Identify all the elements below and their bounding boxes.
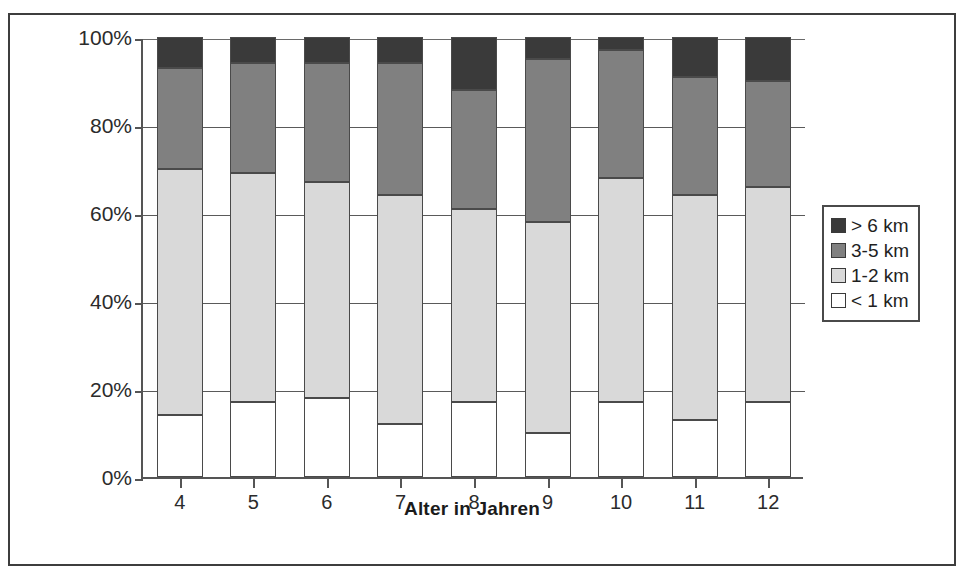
y-axis-tick-label: 0%: [22, 466, 132, 490]
bar-segment: [230, 37, 276, 63]
bar-segment: [598, 178, 644, 402]
bar-column: [525, 37, 571, 477]
x-axis-tick: [400, 479, 402, 488]
bar-segment: [304, 398, 350, 477]
bar-column: [672, 37, 718, 477]
bar-segment: [451, 90, 497, 209]
bar-column: [157, 37, 203, 477]
bar-segment: [230, 173, 276, 402]
x-axis-tick: [474, 479, 476, 488]
bar-segment: [598, 50, 644, 178]
bar-segment: [451, 209, 497, 403]
bar-segment: [230, 402, 276, 477]
chart-root: 0%20%40%60%80%100% 456789101112 Alter in…: [0, 0, 975, 584]
y-axis-tick: [135, 303, 143, 305]
x-axis-tick: [768, 479, 770, 488]
legend-swatch-icon: [831, 293, 846, 308]
bar-column: [451, 37, 497, 477]
legend-item[interactable]: 3-5 km: [831, 238, 909, 263]
y-axis-tick: [135, 127, 143, 129]
bar-segment: [157, 169, 203, 415]
y-axis-labels: 0%20%40%60%80%100%: [14, 39, 132, 479]
y-axis-tick: [135, 479, 143, 481]
x-axis-tick: [548, 479, 550, 488]
x-axis-tick: [253, 479, 255, 488]
legend-item[interactable]: < 1 km: [831, 288, 909, 313]
bar-segment: [377, 63, 423, 195]
legend-item-label: < 1 km: [851, 290, 909, 312]
bar-segment: [598, 37, 644, 50]
x-axis-tick: [621, 479, 623, 488]
x-axis-tick: [180, 479, 182, 488]
bar-segment: [672, 77, 718, 196]
bar-segment: [745, 37, 791, 81]
plot-area: 456789101112: [141, 39, 803, 479]
legend-item[interactable]: > 6 km: [831, 213, 909, 238]
bar-segment: [672, 420, 718, 477]
bar-segment: [304, 63, 350, 182]
bar-segment: [745, 81, 791, 187]
bar-segment: [672, 37, 718, 77]
bar-segment: [157, 68, 203, 169]
bar-segment: [451, 37, 497, 90]
x-axis-tick: [695, 479, 697, 488]
bar-segment: [672, 195, 718, 419]
x-axis-tick: [327, 479, 329, 488]
x-axis-title: Alter in Jahren: [141, 498, 803, 520]
bar-segment: [377, 195, 423, 424]
legend-swatch-icon: [831, 268, 846, 283]
bar-segment: [451, 402, 497, 477]
bar-segment: [525, 59, 571, 222]
bar-segment: [157, 415, 203, 477]
y-axis-tick-label: 40%: [22, 290, 132, 314]
legend-item-label: 1-2 km: [851, 265, 909, 287]
bar-column: [304, 37, 350, 477]
legend-item-label: 3-5 km: [851, 240, 909, 262]
legend-item[interactable]: 1-2 km: [831, 263, 909, 288]
y-axis-tick: [135, 39, 143, 41]
bar-column: [598, 37, 644, 477]
y-axis-tick: [135, 391, 143, 393]
legend: > 6 km3-5 km1-2 km< 1 km: [822, 205, 920, 322]
legend-item-label: > 6 km: [851, 215, 909, 237]
bar-column: [230, 37, 276, 477]
bar-segment: [598, 402, 644, 477]
bar-segment: [745, 187, 791, 403]
y-axis-tick-label: 60%: [22, 202, 132, 226]
bar-column: [377, 37, 423, 477]
y-axis-tick-label: 80%: [22, 114, 132, 138]
legend-swatch-icon: [831, 218, 846, 233]
bar-segment: [377, 37, 423, 63]
bar-segment: [157, 37, 203, 68]
bar-column: [745, 37, 791, 477]
bar-segment: [304, 182, 350, 398]
y-axis-tick-label: 100%: [22, 26, 132, 50]
bar-segment: [377, 424, 423, 477]
bar-segment: [525, 37, 571, 59]
bar-segment: [525, 433, 571, 477]
y-axis-tick: [135, 215, 143, 217]
legend-swatch-icon: [831, 243, 846, 258]
bar-segment: [230, 63, 276, 173]
bar-segment: [304, 37, 350, 63]
bar-segment: [525, 222, 571, 433]
bar-segment: [745, 402, 791, 477]
y-axis-tick-label: 20%: [22, 378, 132, 402]
